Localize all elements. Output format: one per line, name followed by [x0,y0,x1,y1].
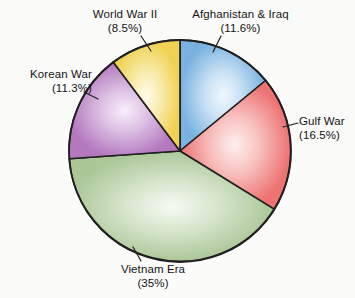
slice-label-gulf-war-percent: (16.5%) [299,129,353,143]
slice-label-gulf-war-name: Gulf War [299,115,353,129]
pie-chart-svg [0,0,355,298]
pie-chart-figure: World War II (8.5%) Afghanistan & Iraq (… [0,0,355,298]
slice-label-afghanistan-iraq: Afghanistan & Iraq (11.6%) [178,8,303,35]
slice-label-afghanistan-iraq-percent: (11.6%) [178,22,303,36]
slice-label-gulf-war: Gulf War (16.5%) [299,115,353,142]
slice-label-vietnam-era: Vietnam Era (35%) [108,263,198,290]
slice-label-world-war-ii-name: World War II [80,8,170,22]
slice-label-vietnam-era-name: Vietnam Era [108,263,198,277]
pie-wedge-group [69,40,291,261]
slice-label-korean-war: Korean War (11.3%) [6,68,92,95]
slice-label-world-war-ii-percent: (8.5%) [80,22,170,36]
slice-label-vietnam-era-percent: (35%) [108,277,198,291]
slice-label-afghanistan-iraq-name: Afghanistan & Iraq [178,8,303,22]
slice-label-korean-war-name: Korean War [6,68,92,82]
slice-label-world-war-ii: World War II (8.5%) [80,8,170,35]
slice-label-korean-war-percent: (11.3%) [6,82,92,96]
